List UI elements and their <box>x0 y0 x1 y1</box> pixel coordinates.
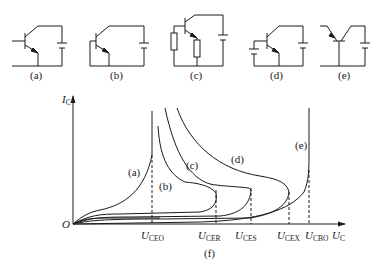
curve-a-label: (a) <box>128 167 140 178</box>
diagram-canvas <box>0 0 381 264</box>
tick-ucer: UCER <box>198 230 221 243</box>
tick-ucbo: UCBO <box>305 230 328 243</box>
circuit-b-label: (b) <box>110 70 123 81</box>
circuit-e <box>320 26 370 66</box>
circuit-c <box>171 15 228 66</box>
curve-d-label: (d) <box>231 154 244 165</box>
origin-label: O <box>62 219 70 230</box>
tick-ucex: UCEX <box>277 230 300 243</box>
circuit-a <box>12 26 67 66</box>
circuit-e-label: (e) <box>338 70 350 81</box>
graph-axes <box>73 96 345 224</box>
circuit-d-label: (d) <box>270 70 283 81</box>
curve-e-label: (e) <box>295 140 307 151</box>
circuit-d <box>249 26 308 66</box>
y-axis-label: IC <box>62 94 71 107</box>
curve-d <box>73 108 289 224</box>
tick-uceo: UCEO <box>141 230 164 243</box>
curve-b-label: (b) <box>159 181 172 192</box>
circuit-c-label: (c) <box>190 70 202 81</box>
circuit-a-label: (a) <box>30 70 42 81</box>
circuit-b <box>90 26 149 66</box>
graph-caption: (f) <box>204 248 215 259</box>
curve-c-label: (c) <box>186 160 198 171</box>
tick-uces: UCES <box>235 230 257 243</box>
x-axis-label: UC <box>332 230 345 243</box>
curve-c <box>73 108 251 224</box>
